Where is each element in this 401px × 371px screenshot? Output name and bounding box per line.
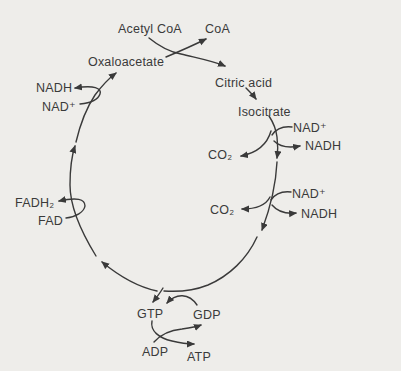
label-nad-left: NAD⁺ (42, 100, 76, 114)
label-acetyl-coa: Acetyl CoA (118, 22, 182, 36)
label-atp: ATP (187, 350, 211, 364)
nadh-out-arrow-2 (272, 205, 296, 213)
label-gtp: GTP (137, 307, 163, 321)
label-oxaloacetate: Oxaloacetate (88, 55, 164, 69)
gdp-to-gtp-arrow (167, 296, 197, 305)
coa-release-arrow (166, 39, 206, 57)
cycle-arc-right-lower (164, 237, 257, 291)
label-nadh-left: NADH (36, 81, 72, 95)
label-co2-1: CO₂ (208, 148, 232, 162)
co2-out-arrow-2 (242, 197, 270, 209)
gtp-to-atp-arrow (152, 321, 194, 344)
citric-acid-cycle-diagram: Acetyl CoA CoA Oxaloacetate Citric acid … (0, 0, 401, 371)
cycle-arc-right-upper (269, 116, 278, 158)
cycle-arc-left-upper (76, 73, 116, 142)
label-nadh-right-1: NADH (305, 139, 341, 153)
label-nadh-right-2: NADH (301, 207, 337, 221)
label-nad-right-1: NAD⁺ (293, 121, 327, 135)
nad-in-curve-2 (271, 192, 291, 200)
label-isocitrate: Isocitrate (238, 105, 291, 119)
co2-out-arrow-1 (241, 131, 271, 156)
label-gdp: GDP (193, 308, 221, 322)
nad-to-nadh-loop-left (75, 87, 100, 104)
label-fadh2: FADH₂ (15, 196, 54, 210)
label-coa: CoA (205, 22, 230, 36)
label-co2-2: CO₂ (210, 203, 234, 217)
cycle-arc-left-lower (102, 262, 157, 291)
label-fad: FAD (38, 214, 63, 228)
label-nad-right-2: NAD⁺ (292, 187, 326, 201)
label-adp: ADP (142, 345, 168, 359)
adp-to-gdp-arrow (154, 325, 201, 342)
label-citric-acid: Citric acid (215, 76, 272, 90)
